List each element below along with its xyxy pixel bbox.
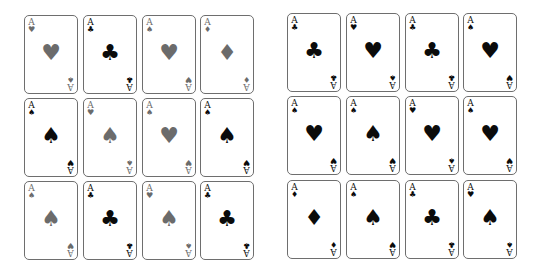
card-corner-bottom: A♥: [506, 156, 513, 172]
suit-icon: ♣: [409, 24, 416, 32]
card-corner-top: A♠: [467, 16, 474, 32]
playing-card[interactable]: A♥♠A♠: [463, 180, 517, 259]
suit-icon: ♣: [448, 73, 455, 81]
card-corner-top: A♣: [409, 16, 416, 32]
card-corner-bottom: A♣: [448, 73, 455, 89]
suit-icon: ♠: [506, 240, 513, 248]
suit-icon: ♥: [506, 156, 513, 164]
center-suit-icon: ♠: [25, 208, 77, 230]
playing-card[interactable]: A♠♥A♥: [142, 15, 196, 94]
suit-icon: ♦: [243, 75, 250, 83]
center-suit-icon: ♥: [288, 123, 340, 145]
suit-icon: ♦: [330, 240, 337, 248]
card-corner-bottom: A♥: [185, 75, 192, 91]
card-corner-bottom: A♦: [330, 240, 337, 256]
card-corner-top: A♣: [291, 16, 298, 32]
suit-icon: ♠: [185, 241, 192, 249]
playing-card[interactable]: A♠♠A♥: [346, 180, 400, 259]
card-corner-top: A♣: [87, 184, 94, 200]
suit-icon: ♠: [467, 107, 474, 115]
playing-card[interactable]: A♣♣A♣: [83, 15, 137, 94]
playing-card[interactable]: A♠♠A♥: [24, 181, 78, 260]
suit-icon: ♠: [204, 109, 211, 117]
card-corner-bottom: A♣: [330, 73, 337, 89]
suit-icon: ♣: [448, 240, 455, 248]
center-suit-icon: ♥: [464, 40, 516, 62]
playing-card[interactable]: A♣♣A♣: [405, 13, 459, 92]
playing-card[interactable]: A♥♥A♠: [405, 96, 459, 175]
card-corner-bottom: A♠: [448, 156, 455, 172]
suit-icon: ♥: [185, 158, 192, 166]
card-corner-bottom: A♥: [389, 156, 396, 172]
center-suit-icon: ♥: [464, 123, 516, 145]
card-corner-top: A♣: [204, 184, 211, 200]
playing-card[interactable]: A♥♠A♠: [142, 181, 196, 260]
suit-icon: ♥: [28, 26, 35, 34]
center-suit-icon: ♣: [84, 42, 136, 64]
card-corner-bottom: A♠: [67, 75, 74, 91]
suit-icon: ♣: [409, 191, 416, 199]
playing-card[interactable]: A♠♥A♥: [463, 96, 517, 175]
suit-icon: ♥: [350, 24, 357, 32]
suit-icon: ♥: [67, 241, 74, 249]
suit-icon: ♠: [28, 192, 35, 200]
suit-icon: ♥: [467, 191, 474, 199]
suit-icon: ♠: [28, 109, 35, 117]
center-suit-icon: ♠: [347, 207, 399, 229]
playing-card[interactable]: A♠♠A♥: [346, 96, 400, 175]
card-corner-bottom: A♥: [506, 73, 513, 89]
playing-card[interactable]: A♥♠A♠: [83, 98, 137, 177]
suit-icon: ♠: [389, 73, 396, 81]
center-suit-icon: ♠: [143, 208, 195, 230]
card-corner-top: A♥: [28, 18, 35, 34]
center-suit-icon: ♣: [201, 208, 253, 230]
suit-icon: ♠: [291, 107, 298, 115]
card-corner-bottom: A♥: [67, 158, 74, 174]
card-corner-top: A♠: [467, 99, 474, 115]
suit-icon: ♣: [330, 73, 337, 81]
card-corner-top: A♠: [28, 101, 35, 117]
card-corner-bottom: A♠: [185, 241, 192, 257]
playing-card[interactable]: A♣♣A♣: [287, 13, 341, 92]
card-corner-top: A♠: [146, 18, 153, 34]
playing-card[interactable]: A♥♥A♠: [24, 15, 78, 94]
center-suit-icon: ♠: [25, 125, 77, 147]
playing-card[interactable]: A♣♣A♣: [200, 181, 254, 260]
playing-card[interactable]: A♣♣A♣: [83, 181, 137, 260]
card-corner-top: A♥: [350, 16, 357, 32]
card-corner-bottom: A♣: [243, 241, 250, 257]
playing-card[interactable]: A♦♦A♦: [200, 15, 254, 94]
center-suit-icon: ♥: [143, 42, 195, 64]
suit-icon: ♣: [126, 241, 133, 249]
playing-card[interactable]: A♣♣A♣: [405, 180, 459, 259]
center-suit-icon: ♠: [201, 125, 253, 147]
center-suit-icon: ♥: [406, 123, 458, 145]
card-corner-top: A♠: [350, 183, 357, 199]
card-corner-top: A♥: [146, 184, 153, 200]
center-suit-icon: ♦: [288, 207, 340, 229]
center-suit-icon: ♣: [406, 207, 458, 229]
suit-icon: ♥: [87, 109, 94, 117]
card-corner-bottom: A♥: [330, 156, 337, 172]
center-suit-icon: ♥: [347, 40, 399, 62]
suit-icon: ♥: [389, 156, 396, 164]
playing-card[interactable]: A♠♠A♥: [200, 98, 254, 177]
card-corner-top: A♥: [87, 101, 94, 117]
card-corner-bottom: A♣: [448, 240, 455, 256]
suit-icon: ♠: [448, 156, 455, 164]
suit-icon: ♥: [67, 158, 74, 166]
suit-icon: ♥: [409, 107, 416, 115]
playing-card[interactable]: A♦♦A♦: [287, 180, 341, 259]
playing-card[interactable]: A♥♥A♠: [346, 13, 400, 92]
suit-icon: ♥: [146, 192, 153, 200]
playing-card[interactable]: A♠♥A♥: [287, 96, 341, 175]
card-corner-top: A♣: [87, 18, 94, 34]
suit-icon: ♠: [126, 158, 133, 166]
playing-card[interactable]: A♠♥A♥: [142, 98, 196, 177]
suit-icon: ♠: [67, 75, 74, 83]
suit-icon: ♥: [506, 73, 513, 81]
suit-icon: ♠: [467, 24, 474, 32]
playing-card[interactable]: A♠♠A♥: [24, 98, 78, 177]
playing-card[interactable]: A♠♥A♥: [463, 13, 517, 92]
suit-icon: ♣: [204, 192, 211, 200]
